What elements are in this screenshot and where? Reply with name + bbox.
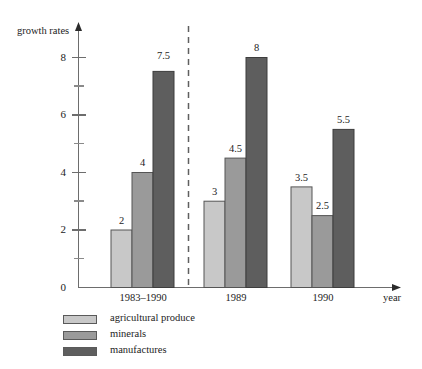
legend-swatch-agricultural-produce <box>63 315 97 324</box>
legend-label-minerals: minerals <box>110 329 146 340</box>
x-category-label-1989: 1989 <box>205 293 267 304</box>
y-tick-label-4: 4 <box>44 167 66 178</box>
bar-value-1983-1990-manufactures: 7.5 <box>148 51 179 62</box>
bar-value-1983-1990-minerals: 4 <box>127 158 158 169</box>
bar-1989-manufactures <box>246 58 267 288</box>
y-tick-label-0: 0 <box>44 282 66 293</box>
bar-1990-minerals <box>312 216 333 288</box>
bar-value-1990-manufactures: 5.5 <box>328 115 359 126</box>
bar-value-1990-minerals: 2.5 <box>307 201 338 212</box>
bar-value-1989-manufactures: 8 <box>241 43 272 54</box>
legend-swatch-manufactures <box>63 347 97 356</box>
x-category-label-1983-1990: 1983–1990 <box>102 293 184 304</box>
x-category-label-1990: 1990 <box>292 293 354 304</box>
y-tick-label-6: 6 <box>44 109 66 120</box>
bar-value-1989-agricultural-produce: 3 <box>199 187 230 198</box>
bar-group-1989 <box>204 58 267 288</box>
bar-1983-1990-manufactures <box>153 71 174 287</box>
x-axis-title: year <box>383 293 401 304</box>
bar-1983-1990-minerals <box>132 173 153 288</box>
y-tick-label-2: 2 <box>44 224 66 235</box>
legend-swatch-minerals <box>63 331 97 340</box>
legend-label-agricultural-produce: agricultural produce <box>110 313 195 324</box>
bar-value-1990-agricultural-produce: 3.5 <box>286 173 317 184</box>
bar-chart: growth rates year 8 6 4 2 0 2 4 7.5 3 4.… <box>0 0 422 369</box>
bar-1989-minerals <box>225 158 246 287</box>
legend-label-manufactures: manufactures <box>110 345 167 356</box>
y-tick-label-8: 8 <box>44 52 66 63</box>
x-axis-arrow-icon <box>392 284 401 291</box>
bar-1989-agricultural-produce <box>204 201 225 287</box>
bar-value-1983-1990-agricultural-produce: 2 <box>106 216 137 227</box>
bar-1983-1990-agricultural-produce <box>111 230 132 288</box>
y-axis-arrow-icon <box>75 22 82 31</box>
bar-group-1983-1990 <box>111 71 174 287</box>
bar-value-1989-minerals: 4.5 <box>220 144 251 155</box>
y-axis-title: growth rates <box>17 26 69 37</box>
